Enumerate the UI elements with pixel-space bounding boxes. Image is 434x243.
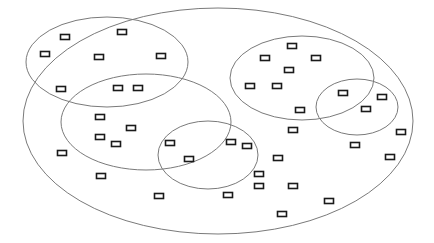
point-marker bbox=[289, 184, 298, 189]
point-marker bbox=[96, 135, 105, 140]
ellipse-top-left bbox=[26, 17, 188, 107]
point-marker bbox=[224, 193, 233, 198]
point-marker bbox=[41, 52, 50, 57]
ellipse-outer bbox=[23, 8, 413, 234]
point-marker bbox=[95, 55, 104, 60]
point-marker bbox=[112, 142, 121, 147]
point-marker bbox=[255, 184, 264, 189]
point-marker bbox=[118, 30, 127, 35]
point-marker bbox=[227, 140, 236, 145]
point-marker bbox=[246, 84, 255, 89]
ellipse-right-small bbox=[316, 79, 398, 135]
point-marker bbox=[261, 56, 270, 61]
point-marker bbox=[378, 95, 387, 100]
point-marker bbox=[255, 172, 264, 177]
point-marker bbox=[97, 174, 106, 179]
point-marker bbox=[185, 157, 194, 162]
point-group bbox=[41, 30, 406, 217]
point-marker bbox=[278, 212, 287, 217]
venn-diagram bbox=[0, 0, 434, 243]
point-marker bbox=[312, 56, 321, 61]
point-marker bbox=[288, 44, 297, 49]
point-marker bbox=[127, 126, 136, 131]
point-marker bbox=[289, 128, 298, 133]
point-marker bbox=[61, 35, 70, 40]
point-marker bbox=[96, 115, 105, 120]
point-marker bbox=[351, 143, 360, 148]
point-marker bbox=[362, 107, 371, 112]
point-marker bbox=[166, 141, 175, 146]
ellipse-middle-left bbox=[61, 74, 231, 170]
point-marker bbox=[243, 144, 252, 149]
point-marker bbox=[386, 155, 395, 160]
point-marker bbox=[157, 54, 166, 59]
point-marker bbox=[325, 199, 334, 204]
diagram-canvas bbox=[0, 0, 434, 243]
point-marker bbox=[58, 151, 67, 156]
point-marker bbox=[285, 68, 294, 73]
point-marker bbox=[273, 84, 282, 89]
point-marker bbox=[57, 87, 66, 92]
point-marker bbox=[296, 108, 305, 113]
point-marker bbox=[339, 91, 348, 96]
point-marker bbox=[114, 86, 123, 91]
point-marker bbox=[155, 194, 164, 199]
ellipse-group bbox=[23, 8, 413, 234]
point-marker bbox=[397, 130, 406, 135]
point-marker bbox=[274, 156, 283, 161]
point-marker bbox=[134, 86, 143, 91]
